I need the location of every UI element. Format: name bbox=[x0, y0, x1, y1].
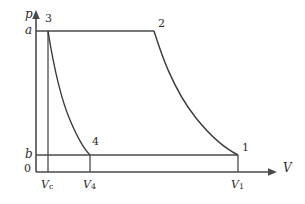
volume-tick-v4: V4 bbox=[83, 179, 96, 191]
volume-axis-label: V bbox=[283, 162, 292, 174]
volume-tick-v1-sub: 1 bbox=[239, 182, 244, 191]
origin-label: 0 bbox=[24, 163, 31, 174]
volume-axis bbox=[36, 168, 277, 176]
adiabat-curve-2-to-1 bbox=[154, 31, 238, 155]
volume-tick-v4-base: V bbox=[83, 178, 91, 191]
diagram-canvas bbox=[0, 0, 305, 204]
pv-diagram-figure: p V 0 a b Vc V4 V1 1 2 3 4 bbox=[0, 0, 305, 204]
state-point-label-3: 3 bbox=[45, 13, 52, 24]
volume-tick-vc: Vc bbox=[41, 179, 53, 191]
pressure-axis-label: p bbox=[25, 8, 33, 20]
pressure-tick-b: b bbox=[25, 148, 33, 160]
pressure-tick-a: a bbox=[25, 24, 32, 36]
volume-tick-v4-sub: 4 bbox=[91, 182, 96, 191]
adiabat-curve-3-to-4 bbox=[48, 31, 90, 155]
volume-tick-vc-base: V bbox=[41, 178, 49, 191]
volume-tick-v1: V1 bbox=[231, 179, 244, 191]
volume-tick-v1-base: V bbox=[231, 178, 239, 191]
state-point-label-1: 1 bbox=[242, 142, 249, 153]
state-point-label-2: 2 bbox=[158, 18, 165, 29]
volume-tick-vc-sub: c bbox=[49, 182, 53, 191]
state-point-label-4: 4 bbox=[92, 136, 99, 147]
pressure-axis bbox=[32, 10, 40, 172]
